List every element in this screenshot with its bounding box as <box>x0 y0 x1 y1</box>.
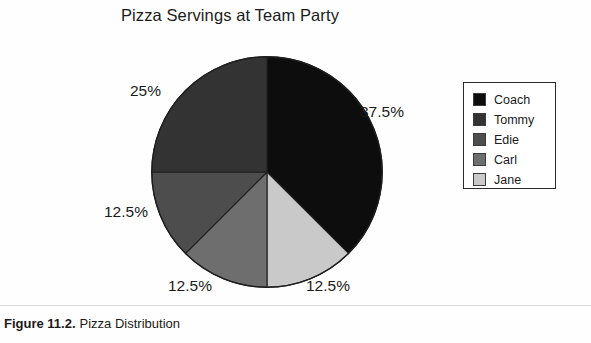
legend-label-edie: Edie <box>494 133 519 147</box>
legend-swatch-tommy <box>473 113 486 126</box>
chart-legend: CoachTommyEdieCarlJane <box>463 82 556 189</box>
figure-caption: Figure 11.2.Pizza Distribution <box>4 316 180 331</box>
legend-label-jane: Jane <box>494 173 521 187</box>
caption-figure-number: Figure 11.2. <box>4 316 76 331</box>
pie-chart <box>151 56 383 288</box>
pie-label-jane: 12.5% <box>306 277 350 295</box>
legend-label-tommy: Tommy <box>494 113 534 127</box>
legend-item-carl[interactable]: Carl <box>473 150 555 169</box>
pie-label-edie: 12.5% <box>104 203 148 221</box>
legend-item-tommy[interactable]: Tommy <box>473 110 555 129</box>
chart-title: Pizza Servings at Team Party <box>0 6 460 25</box>
pie-label-carl: 12.5% <box>168 277 212 295</box>
legend-swatch-jane <box>473 173 486 186</box>
pie-slice-group <box>152 57 382 287</box>
legend-swatch-carl <box>473 153 486 166</box>
legend-item-edie[interactable]: Edie <box>473 130 555 149</box>
pie-slice-tommy[interactable] <box>152 57 267 172</box>
pie-label-tommy: 25% <box>130 82 161 100</box>
legend-label-coach: Coach <box>494 93 530 107</box>
caption-text: Pizza Distribution <box>80 316 180 331</box>
legend-swatch-coach <box>473 93 486 106</box>
pie-label-coach: 37.5% <box>360 103 404 121</box>
legend-item-jane[interactable]: Jane <box>473 170 555 189</box>
caption-divider <box>0 305 591 306</box>
pie-chart-svg <box>151 56 383 288</box>
legend-item-coach[interactable]: Coach <box>473 90 555 109</box>
figure-container: Pizza Servings at Team Party 37.5% 12.5%… <box>0 0 591 343</box>
legend-swatch-edie <box>473 133 486 146</box>
legend-label-carl: Carl <box>494 153 517 167</box>
